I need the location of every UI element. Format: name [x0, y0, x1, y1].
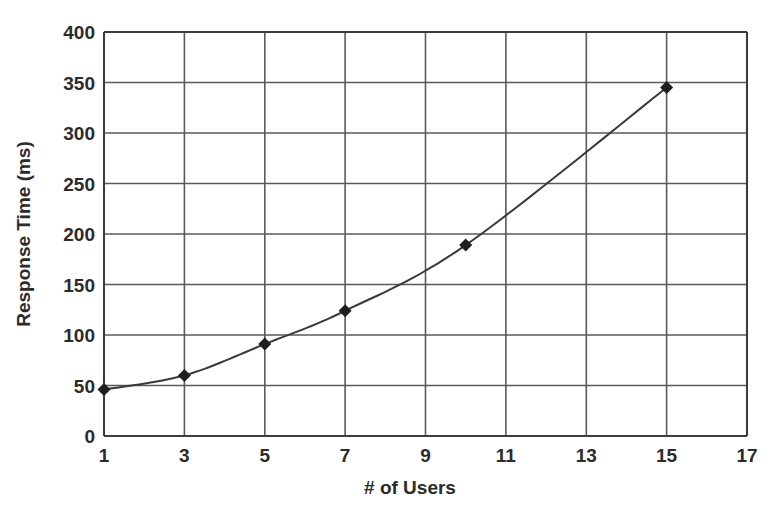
x-tick-label: 15 — [656, 445, 678, 466]
y-tick-label: 200 — [63, 224, 95, 245]
response-time-line-chart: 050100150200250300350400 1357911131517 R… — [0, 0, 774, 519]
x-tick-label: 13 — [576, 445, 597, 466]
x-tick-label: 17 — [736, 445, 757, 466]
x-axis-tick-labels: 1357911131517 — [99, 445, 758, 466]
y-tick-label: 400 — [63, 22, 95, 43]
x-tick-label: 1 — [99, 445, 110, 466]
y-tick-label: 50 — [74, 376, 95, 397]
y-tick-label: 300 — [63, 123, 95, 144]
y-axis-title: Response Time (ms) — [13, 141, 34, 326]
y-tick-label: 250 — [63, 174, 95, 195]
x-tick-label: 7 — [340, 445, 351, 466]
x-tick-label: 3 — [179, 445, 190, 466]
figure-container: 050100150200250300350400 1357911131517 R… — [0, 0, 774, 519]
y-tick-label: 350 — [63, 73, 95, 94]
x-axis-title: # of Users — [364, 477, 456, 498]
x-tick-label: 9 — [420, 445, 431, 466]
y-tick-label: 0 — [84, 426, 95, 447]
x-tick-label: 5 — [259, 445, 270, 466]
y-tick-label: 150 — [63, 275, 95, 296]
x-tick-label: 11 — [496, 445, 517, 466]
y-tick-label: 100 — [63, 325, 95, 346]
y-axis-tick-labels: 050100150200250300350400 — [63, 22, 95, 447]
